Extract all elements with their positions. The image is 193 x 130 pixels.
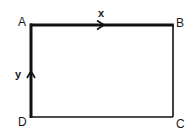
vertex-label-b: B (176, 16, 184, 30)
edge-label-x: x (98, 7, 105, 19)
vertex-label-a: A (18, 15, 26, 29)
rectangle-diagram: A B D C x y (0, 0, 193, 130)
vertex-label-c: C (176, 117, 185, 130)
edge-label-y: y (15, 68, 22, 80)
vertex-label-d: D (18, 115, 27, 129)
